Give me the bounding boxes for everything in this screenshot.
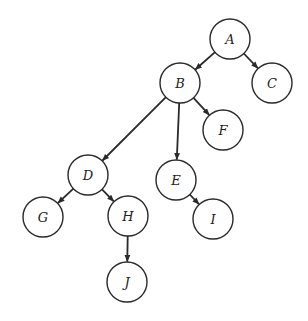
edge-a-b: [195, 52, 215, 69]
node-label: I: [209, 212, 216, 227]
node-b: B: [160, 63, 200, 103]
edge-d-g: [58, 189, 73, 203]
node-d: D: [68, 155, 108, 195]
node-label: A: [224, 32, 234, 47]
node-e: E: [156, 160, 196, 200]
edge-e-i: [190, 195, 199, 205]
node-c: C: [252, 63, 292, 103]
edge-b-d: [103, 97, 166, 160]
node-f: F: [203, 110, 243, 150]
node-h: H: [108, 196, 148, 236]
node-label: E: [170, 173, 181, 188]
node-label: D: [82, 168, 94, 183]
node-label: C: [267, 76, 277, 91]
edge-b-f: [194, 98, 210, 115]
node-j: J: [107, 262, 147, 302]
tree-diagram: ABCDEFGHIJ: [0, 0, 308, 321]
node-g: G: [23, 197, 63, 237]
node-label: G: [38, 210, 48, 225]
node-label: H: [121, 209, 134, 224]
node-label: F: [217, 123, 228, 138]
node-label: B: [174, 76, 185, 91]
node-a: A: [210, 19, 250, 59]
edge-d-h: [102, 189, 114, 201]
node-i: I: [193, 199, 233, 239]
edge-a-c: [244, 54, 258, 69]
edge-b-e: [177, 103, 179, 160]
